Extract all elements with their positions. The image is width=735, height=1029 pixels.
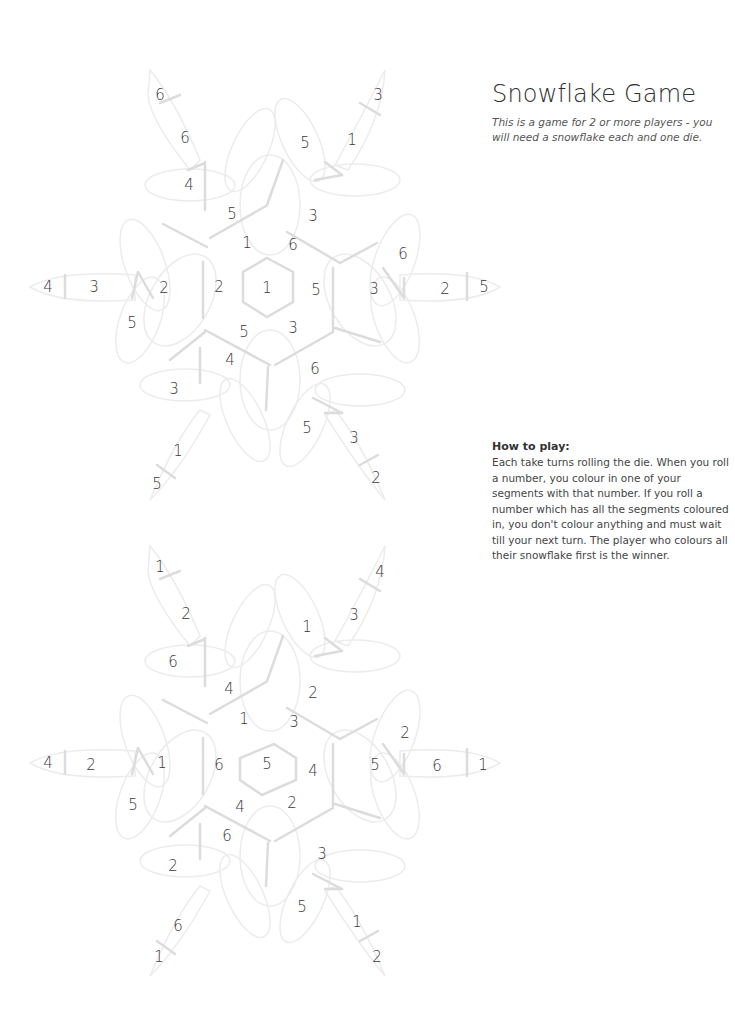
segment-number[interactable]: 1	[352, 913, 362, 931]
segment-number[interactable]: 5	[311, 281, 321, 299]
segment-number[interactable]: 6	[214, 756, 224, 774]
segment-number[interactable]: 1	[154, 948, 164, 966]
segment-number[interactable]: 3	[288, 319, 298, 337]
segment-number[interactable]: 1	[242, 234, 252, 252]
segment-number[interactable]: 3	[89, 278, 99, 296]
segment-number[interactable]: 5	[128, 796, 138, 814]
snowflake-outline-icon	[0, 0, 520, 520]
segment-number[interactable]: 6	[173, 917, 183, 935]
segment-number[interactable]: 2	[287, 794, 297, 812]
segment-number[interactable]: 3	[289, 713, 299, 731]
segment-number[interactable]: 1	[478, 756, 488, 774]
how-to-play-heading: How to play:	[492, 440, 570, 453]
page-title: Snowflake Game	[492, 80, 696, 108]
segment-number[interactable]: 6	[310, 360, 320, 378]
segment-number[interactable]: 4	[235, 798, 245, 816]
segment-number[interactable]: 2	[159, 279, 169, 297]
segment-number[interactable]: 2	[308, 684, 318, 702]
segment-number[interactable]: 3	[349, 606, 359, 624]
segment-number[interactable]: 6	[432, 757, 442, 775]
how-to-play-text: Each take turns rolling the die. When yo…	[492, 455, 730, 564]
segment-number[interactable]: 4	[43, 278, 53, 296]
segment-number[interactable]: 5	[262, 755, 272, 773]
segment-number[interactable]: 5	[370, 756, 380, 774]
segment-number[interactable]: 2	[440, 280, 450, 298]
segment-number[interactable]: 6	[398, 245, 408, 263]
segment-number[interactable]: 3	[308, 207, 318, 225]
snowflake-outline-icon	[0, 476, 520, 996]
segment-number[interactable]: 6	[168, 653, 178, 671]
segment-number[interactable]: 2	[214, 278, 224, 296]
segment-number[interactable]: 6	[222, 827, 232, 845]
segment-number[interactable]: 1	[347, 131, 357, 149]
segment-number[interactable]: 3	[369, 280, 379, 298]
segment-number[interactable]: 2	[168, 857, 178, 875]
segment-number[interactable]: 1	[262, 279, 272, 297]
segment-number[interactable]: 2	[86, 756, 96, 774]
segment-number[interactable]: 2	[181, 605, 191, 623]
segment-number[interactable]: 5	[127, 314, 137, 332]
segment-number[interactable]: 2	[371, 469, 381, 487]
segment-number[interactable]: 5	[239, 323, 249, 341]
segment-number[interactable]: 4	[375, 563, 385, 581]
segment-number[interactable]: 1	[155, 558, 165, 576]
segment-number[interactable]: 4	[224, 680, 234, 698]
segment-number[interactable]: 1	[173, 442, 183, 460]
segment-number[interactable]: 6	[155, 86, 165, 104]
segment-number[interactable]: 3	[317, 845, 327, 863]
intro-text: This is a game for 2 or more players - y…	[492, 115, 727, 145]
segment-number[interactable]: 2	[400, 724, 410, 742]
segment-number[interactable]: 4	[43, 754, 53, 772]
segment-number[interactable]: 2	[372, 948, 382, 966]
segment-number[interactable]: 4	[225, 351, 235, 369]
snowflake-board-1	[0, 0, 520, 520]
snowflake-board-2	[0, 476, 520, 996]
segment-number[interactable]: 1	[302, 618, 312, 636]
segment-number[interactable]: 4	[308, 762, 318, 780]
segment-number[interactable]: 3	[373, 86, 383, 104]
segment-number[interactable]: 5	[302, 419, 312, 437]
segment-number[interactable]: 5	[152, 475, 162, 493]
segment-number[interactable]: 3	[169, 380, 179, 398]
segment-number[interactable]: 5	[479, 278, 489, 296]
segment-number[interactable]: 1	[239, 710, 249, 728]
segment-number[interactable]: 5	[297, 898, 307, 916]
segment-number[interactable]: 3	[349, 429, 359, 447]
segment-number[interactable]: 5	[227, 205, 237, 223]
segment-number[interactable]: 6	[180, 129, 190, 147]
segment-number[interactable]: 1	[157, 754, 167, 772]
segment-number[interactable]: 6	[288, 236, 298, 254]
segment-number[interactable]: 4	[184, 176, 194, 194]
segment-number[interactable]: 5	[300, 134, 310, 152]
